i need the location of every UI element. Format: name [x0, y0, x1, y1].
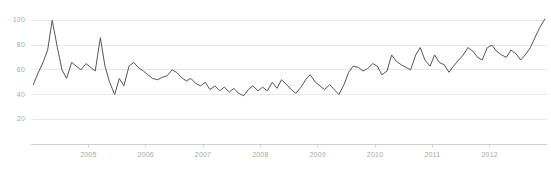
- y-axis-tick-label: 20: [3, 115, 25, 122]
- x-axis-tick-label: 2007: [183, 151, 223, 158]
- chart-plot-area: [0, 0, 551, 171]
- x-axis-line: [31, 144, 547, 147]
- y-axis-tick-label: 80: [3, 41, 25, 48]
- y-axis-tick-label: 60: [3, 66, 25, 73]
- x-axis-tick-label: 2005: [68, 151, 108, 158]
- line-chart: 10080604020 2005200620072008200920102011…: [0, 0, 551, 171]
- x-axis-tick-label: 2008: [240, 151, 280, 158]
- x-axis-tick-label: 2010: [355, 151, 395, 158]
- x-axis-tick-label: 2012: [470, 151, 510, 158]
- x-axis-tick-label: 2006: [126, 151, 166, 158]
- x-axis-tick-label: 2011: [412, 151, 452, 158]
- gridlines: [31, 20, 547, 119]
- y-axis-tick-label: 100: [3, 16, 25, 23]
- y-axis-tick-label: 40: [3, 91, 25, 98]
- x-axis-tick-label: 2009: [298, 151, 338, 158]
- data-series-line: [33, 19, 544, 96]
